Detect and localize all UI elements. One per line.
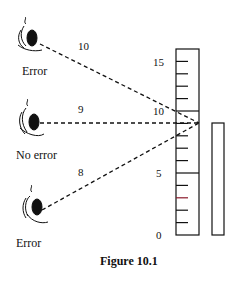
eye-icon [23,185,48,223]
distance-label-top: 10 [78,41,89,52]
eye-label-middle: No error [16,149,57,161]
eye-icon [18,17,42,51]
scale-label-5: 5 [156,168,162,179]
scale-label-15: 15 [153,57,164,68]
scale-label-10: 10 [153,106,164,117]
sight-lines [40,44,199,210]
eye-icon [20,99,44,136]
sight-line-top [40,44,199,123]
distance-label-bottom: 8 [78,167,84,178]
eye-label-bottom: Error [16,237,41,249]
eye-label-top: Error [22,65,47,77]
figure-caption: Figure 10.1 [100,254,158,269]
parallax-error-diagram: 10 9 8 Error No error Error 15 10 5 0 Fi… [0,0,239,284]
measured-object [212,123,224,235]
scale-label-0: 0 [156,230,162,241]
distance-label-middle: 9 [78,104,84,115]
ruler [176,49,199,235]
